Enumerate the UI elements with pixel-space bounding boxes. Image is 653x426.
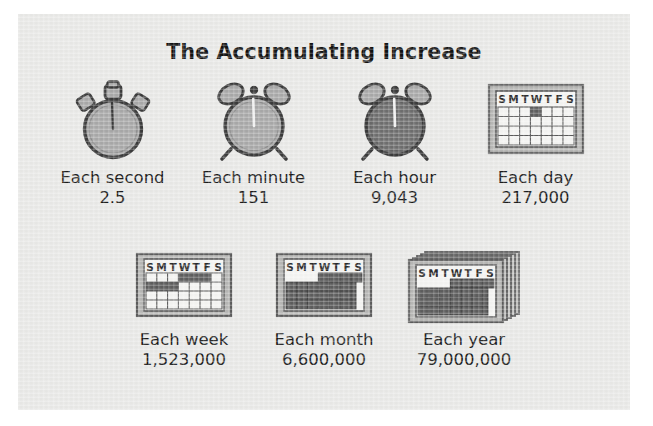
svg-text:T: T — [332, 261, 340, 273]
metric-item-each-year: SMT WTFS Each year 79,000,000 — [394, 250, 534, 370]
svg-text:T: T — [309, 261, 317, 273]
svg-text:S: S — [418, 267, 426, 279]
svg-text:W: W — [451, 267, 463, 279]
svg-text:M: M — [428, 267, 438, 279]
metric-item-each-minute: Each minute 151 — [183, 78, 324, 208]
svg-text:F: F — [475, 267, 482, 279]
calendar-day-icon: SMT WTFS — [485, 78, 587, 164]
svg-text:T: T — [544, 93, 552, 105]
svg-text:S: S — [354, 261, 362, 273]
svg-text:F: F — [203, 261, 210, 273]
alarm-clock-icon — [211, 78, 297, 164]
svg-text:S: S — [214, 261, 222, 273]
metric-item-each-hour: Each hour 9,043 — [324, 78, 465, 208]
svg-text:T: T — [192, 261, 200, 273]
stopwatch-icon — [70, 78, 156, 164]
svg-text:S: S — [486, 267, 494, 279]
metric-label: Each minute — [202, 168, 306, 188]
metric-value: 9,043 — [371, 188, 418, 208]
metric-label: Each second — [60, 168, 164, 188]
top-row: Each second 2.5 — [42, 78, 606, 208]
metric-label: Each year — [423, 330, 505, 350]
metric-value: 2.5 — [99, 188, 125, 208]
svg-text:S: S — [566, 93, 574, 105]
metric-value: 6,600,000 — [282, 350, 366, 370]
metric-label: Each day — [498, 168, 574, 188]
svg-text:S: S — [146, 261, 154, 273]
metric-value: 151 — [238, 188, 270, 208]
metric-item-each-day: SMT WTFS Each day 217,000 — [465, 78, 606, 208]
svg-text:F: F — [555, 93, 562, 105]
calendar-month-icon: SMT WTFS — [273, 250, 375, 326]
metric-value: 217,000 — [501, 188, 569, 208]
metric-label: Each hour — [353, 168, 436, 188]
metric-item-each-month: SMT WTFS Each month 6,600,000 — [254, 250, 394, 370]
bottom-row: SMT WTFS Each week 1,523,000 — [114, 250, 534, 370]
metric-value: 1,523,000 — [142, 350, 226, 370]
svg-text:T: T — [521, 93, 529, 105]
metric-value: 79,000,000 — [417, 350, 511, 370]
svg-text:W: W — [179, 261, 191, 273]
infographic-panel: The Accumulating Increase — [18, 14, 630, 410]
metric-label: Each month — [275, 330, 374, 350]
svg-text:T: T — [464, 267, 472, 279]
calendar-week-icon: SMT WTFS — [133, 250, 235, 326]
calendar-year-stack-icon: SMT WTFS — [405, 250, 523, 326]
metric-item-each-second: Each second 2.5 — [42, 78, 183, 208]
svg-text:W: W — [530, 93, 542, 105]
svg-text:M: M — [296, 261, 306, 273]
metric-item-each-week: SMT WTFS Each week 1,523,000 — [114, 250, 254, 370]
svg-text:S: S — [286, 261, 294, 273]
metric-label: Each week — [140, 330, 229, 350]
svg-text:T: T — [441, 267, 449, 279]
alarm-clock-dark-icon — [352, 78, 438, 164]
svg-text:S: S — [498, 93, 506, 105]
svg-text:W: W — [319, 261, 331, 273]
svg-text:T: T — [169, 261, 177, 273]
svg-text:M: M — [156, 261, 166, 273]
svg-text:F: F — [343, 261, 350, 273]
page-title: The Accumulating Increase — [18, 40, 630, 64]
svg-text:M: M — [508, 93, 518, 105]
